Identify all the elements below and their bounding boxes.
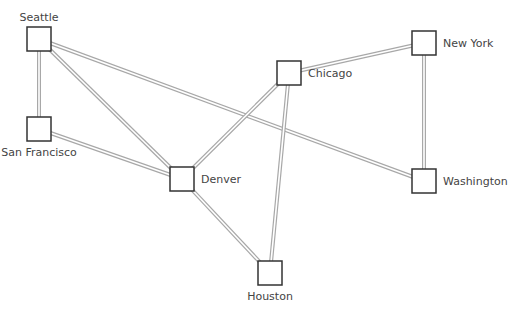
node-box[interactable]: [27, 27, 51, 51]
node-label: Washington: [443, 175, 508, 188]
node-label: New York: [443, 37, 494, 50]
node-new-york[interactable]: New York: [412, 31, 494, 55]
node-label: Denver: [201, 173, 241, 186]
edge-line: [39, 39, 424, 181]
node-box[interactable]: [412, 31, 436, 55]
edge-chicago-houston: [270, 73, 289, 273]
edges-layer: [39, 39, 424, 273]
node-label: Chicago: [308, 67, 352, 80]
node-chicago[interactable]: Chicago: [277, 61, 352, 85]
node-box[interactable]: [412, 169, 436, 193]
node-label: Houston: [247, 290, 293, 303]
node-houston[interactable]: Houston: [247, 261, 293, 303]
node-box[interactable]: [170, 167, 194, 191]
node-washington[interactable]: Washington: [412, 169, 508, 193]
node-label: Seattle: [20, 11, 59, 24]
node-box[interactable]: [277, 61, 301, 85]
edge-line: [270, 73, 289, 273]
edge-denver-houston: [182, 179, 270, 273]
edge-line: [182, 179, 270, 273]
network-diagram: SeattleSan FranciscoDenverChicagoNew Yor…: [0, 0, 515, 313]
edge-seattle-washington: [39, 39, 424, 181]
node-box[interactable]: [27, 117, 51, 141]
node-box[interactable]: [258, 261, 282, 285]
node-label: San Francisco: [1, 146, 77, 159]
node-denver[interactable]: Denver: [170, 167, 241, 191]
